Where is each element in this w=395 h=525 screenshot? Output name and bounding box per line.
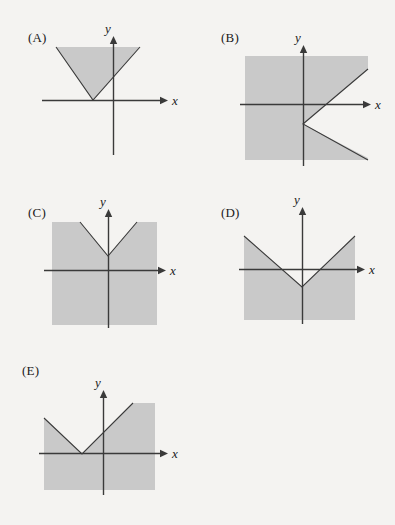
panel-b-label: (B) [221,30,239,46]
panel-c: (C) x y [0,180,197,355]
y-axis-label-c: y [98,194,106,209]
x-axis-label-a: x [171,93,178,108]
panel-a-graph: x y [0,0,197,175]
x-axis-label-d: x [368,262,375,277]
x-axis-label-c: x [169,263,176,278]
y-axis-arrow-e [100,390,107,398]
panel-d: (D) x y [197,180,395,355]
shaded-region-a [56,47,140,100]
panel-b-graph: x y [197,0,395,180]
figure-sheet: (A) x y (B) x [0,0,395,525]
y-axis-label-d: y [292,192,300,207]
panel-a: (A) x y [0,0,197,175]
y-axis-arrow-d [299,207,306,215]
y-axis-label-e: y [93,375,101,390]
panel-e: (E) x y [0,355,220,525]
panel-c-label: (C) [28,205,46,221]
y-axis-label-a: y [103,21,111,36]
panel-e-label: (E) [22,363,39,379]
y-axis-label-b: y [293,30,301,45]
y-axis-arrow-b [300,45,307,53]
panel-d-label: (D) [221,205,240,221]
x-axis-arrow-c [158,267,166,274]
shaded-region-e [44,403,155,490]
panel-e-graph: x y [0,355,220,525]
y-axis-arrow-c [105,209,112,217]
x-axis-arrow-d [357,266,365,273]
x-axis-arrow-e [160,450,168,457]
y-axis-arrow-a [110,36,117,44]
panel-b: (B) x y [197,0,395,180]
shaded-region-c [52,222,157,325]
x-axis-arrow-a [160,97,168,104]
x-axis-label-e: x [171,446,178,461]
shaded-region-d [244,236,355,320]
x-axis-arrow-b [363,101,371,108]
x-axis-label-b: x [374,97,381,112]
shaded-region-b [245,56,368,160]
panel-a-label: (A) [28,30,47,46]
